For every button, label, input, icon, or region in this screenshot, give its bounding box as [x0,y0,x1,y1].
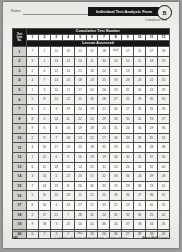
lesson-cell[interactable]: 30 [86,181,98,191]
lesson-cell[interactable]: 6 [27,162,39,172]
lesson-cell[interactable]: 25 [110,181,122,191]
lesson-cell[interactable]: 27 [86,200,98,210]
lesson-cell[interactable]: 19 [98,152,110,162]
lesson-cell[interactable]: 11 [134,47,146,57]
lesson-cell[interactable]: 18 [98,47,110,57]
lesson-cell[interactable]: 29 [157,85,169,95]
lesson-cell[interactable]: 21 [86,191,98,201]
lesson-cell[interactable]: 29 [86,152,98,162]
lesson-cell[interactable]: 34 [146,220,158,230]
lesson-cell[interactable]: 9 [27,124,39,134]
lesson-cell[interactable]: 38 [134,181,146,191]
lesson-cell[interactable]: 23 [134,76,146,86]
lesson-cell[interactable]: 23 [110,85,122,95]
lesson-cell[interactable]: 17 [86,172,98,182]
lesson-cell[interactable]: 24 [98,66,110,76]
lesson-cell[interactable]: 23 [62,191,74,201]
lesson-cell[interactable]: 14 [38,181,50,191]
lesson-cell[interactable]: 28 [74,210,86,220]
lesson-cell[interactable]: 26 [74,181,86,191]
lesson-cell[interactable]: 7 [62,210,74,220]
lesson-cell[interactable]: 25 [157,76,169,86]
lesson-cell[interactable]: 10 [122,57,134,67]
lesson-cell[interactable]: 16 [74,152,86,162]
lesson-cell[interactable]: 28 [157,172,169,182]
lesson-cell[interactable]: 23 [98,124,110,134]
lesson-cell[interactable]: 7 [27,181,39,191]
lesson-cell[interactable]: 29 [134,95,146,105]
lesson-cell[interactable]: 15 [50,95,62,105]
lesson-cell[interactable]: 42 [157,210,169,220]
lesson-cell[interactable]: 21 [146,66,158,76]
lesson-cell[interactable]: 20 [134,85,146,95]
lesson-cell[interactable]: 31 [157,133,169,143]
lesson-cell[interactable]: 6 [50,152,62,162]
lesson-cell[interactable]: 10 [74,220,86,230]
lesson-cell[interactable]: 31 [110,124,122,134]
lesson-cell[interactable]: 25 [146,210,158,220]
lesson-cell[interactable]: 11 [50,47,62,57]
lesson-cell[interactable]: 23 [122,200,134,210]
lesson-cell[interactable]: 16 [86,66,98,76]
lesson-cell[interactable]: 5 [27,191,39,201]
lesson-cell[interactable]: 32 [98,143,110,153]
lesson-cell[interactable]: 41 [157,181,169,191]
lesson-cell[interactable]: 29 [122,181,134,191]
lesson-cell[interactable]: 28 [134,133,146,143]
lesson-cell[interactable]: 24 [122,124,134,134]
lesson-cell[interactable]: 26 [122,162,134,172]
lesson-cell[interactable]: 17 [74,85,86,95]
lesson-cell[interactable]: 6 [27,104,39,114]
lesson-cell[interactable]: 17 [38,210,50,220]
lesson-cell[interactable]: 16 [62,124,74,134]
lesson-cell[interactable]: 18 [110,114,122,124]
lesson-cell[interactable]: 35 [98,181,110,191]
lesson-cell[interactable]: 22 [86,133,98,143]
lesson-cell[interactable]: 36 [98,220,110,230]
lesson-cell[interactable]: 24 [146,85,158,95]
lesson-cell[interactable]: 34 [110,152,122,162]
lesson-cell[interactable]: 18 [157,47,169,57]
lesson-cell[interactable]: 2 [27,210,39,220]
lesson-cell[interactable]: 28 [110,191,122,201]
lesson-cell[interactable]: 12 [38,152,50,162]
lesson-cell[interactable]: 12 [74,47,86,57]
lesson-cell[interactable]: 27 [157,114,169,124]
lesson-cell[interactable]: 17 [62,85,74,95]
lesson-cell[interactable]: 33 [134,220,146,230]
lesson-cell[interactable]: 8 [27,200,39,210]
lesson-cell[interactable]: 35 [122,114,134,124]
lesson-cell[interactable]: 32 [157,191,169,201]
lesson-cell[interactable]: 21 [50,210,62,220]
lesson-cell[interactable]: 15 [62,47,74,57]
lesson-cell[interactable]: 15 [38,191,50,201]
lesson-cell[interactable]: 22 [98,172,110,182]
lesson-cell[interactable]: 33 [98,200,110,210]
lesson-cell[interactable]: 34 [122,191,134,201]
lesson-cell[interactable]: 33 [157,104,169,114]
lesson-cell[interactable]: 25 [86,162,98,172]
lesson-cell[interactable]: 1 [38,47,50,57]
lesson-cell[interactable]: 5 [50,172,62,182]
lesson-cell[interactable]: 27 [122,104,134,114]
lesson-cell[interactable]: 22 [74,114,86,124]
lesson-cell[interactable]: 24 [98,210,110,220]
lesson-cell[interactable]: 29 [110,143,122,153]
lesson-cell[interactable]: 28 [122,76,134,86]
lesson-cell[interactable]: 25 [62,220,74,230]
lesson-cell[interactable]: 30 [146,95,158,105]
lesson-cell[interactable]: 27 [98,133,110,143]
lesson-cell[interactable]: 8 [50,124,62,134]
lesson-cell[interactable]: 27 [146,47,158,57]
lesson-cell[interactable]: 3 [27,57,39,67]
lesson-cell[interactable]: 3 [50,220,62,230]
lesson-cell[interactable]: 17 [122,47,134,57]
lesson-cell[interactable]: 5 [27,95,39,105]
lesson-cell[interactable]: 16 [38,200,50,210]
lesson-cell[interactable]: 1 [27,85,39,95]
lesson-cell[interactable]: 11 [74,191,86,201]
lesson-cell[interactable]: 35 [157,200,169,210]
lesson-cell[interactable]: 10 [50,85,62,95]
lesson-cell[interactable]: 7 [27,47,39,57]
lesson-cell[interactable]: 18 [86,143,98,153]
